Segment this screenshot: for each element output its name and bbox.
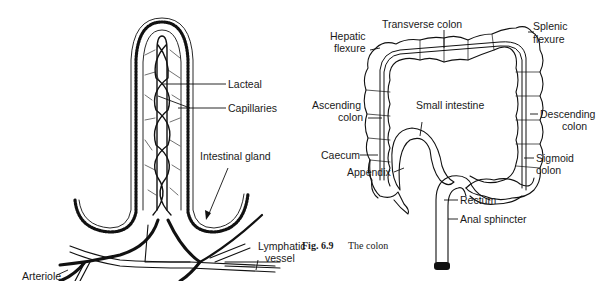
label-ascending-colon-line1: Ascending	[312, 99, 361, 111]
label-sigmoid-colon-line1: Sigmoid	[536, 152, 574, 164]
label-caecum: Caecum	[321, 149, 360, 161]
figure-number: Fig. 6.9	[302, 240, 333, 251]
colon-inner-wall	[388, 47, 518, 186]
colon-diagram: Transverse colon Hepatic flexure Splenic…	[302, 18, 596, 270]
label-rectum: Rectum	[460, 194, 496, 206]
label-sigmoid-colon-line2: colon	[536, 164, 561, 176]
label-capillaries: Capillaries	[228, 102, 277, 114]
label-ascending-colon-line2: colon	[338, 111, 363, 123]
label-small-intestine: Small intestine	[416, 99, 484, 111]
small-intestine-leader	[420, 122, 422, 136]
small-intestine	[392, 128, 454, 190]
anal-sphincter	[434, 262, 450, 270]
label-arteriole: Arteriole	[22, 270, 61, 281]
capillaries	[153, 45, 171, 215]
label-splenic-flexure-line1: Splenic	[533, 20, 567, 32]
label-descending-colon-line2: colon	[562, 120, 587, 132]
label-hepatic-flexure-line2: flexure	[334, 42, 366, 54]
diagram-canvas: Lacteal Capillaries Intestinal gland Lym…	[0, 0, 610, 281]
label-intestinal-gland: Intestinal gland	[200, 150, 271, 162]
label-descending-colon-line1: Descending	[540, 108, 596, 120]
label-anal-sphincter: Anal sphincter	[460, 213, 527, 225]
label-lymphatic-vessel-line1: Lymphatic	[258, 240, 305, 252]
label-transverse-colon: Transverse colon	[382, 18, 462, 30]
villus-diagram: Lacteal Capillaries Intestinal gland Lym…	[22, 18, 305, 281]
label-lacteal: Lacteal	[228, 78, 262, 90]
capillaries-leader-1	[158, 96, 190, 108]
label-lymphatic-vessel-line2: vessel	[265, 252, 295, 264]
vein-vessel	[70, 246, 275, 281]
label-splenic-flexure-line2: flexure	[533, 33, 565, 45]
colon-taenia-line	[380, 42, 526, 190]
label-hepatic-flexure-line1: Hepatic	[330, 30, 366, 42]
villus-connective-cells	[145, 50, 180, 195]
figure-caption: The colon	[348, 240, 388, 251]
intestinal-gland-arrow	[208, 168, 228, 216]
label-appendix: Appendix	[347, 166, 392, 178]
